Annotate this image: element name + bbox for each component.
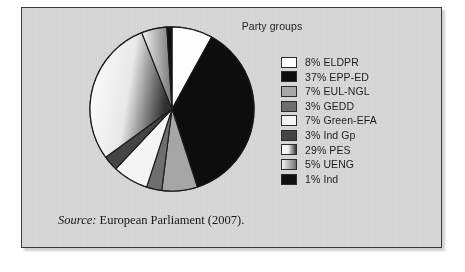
legend-label-eul-ngl: 7% EUL-NGL <box>305 86 370 97</box>
legend-item-gedd[interactable]: 3% GEDD <box>281 99 411 114</box>
pie-chart-svg <box>82 19 262 199</box>
legend-label-ind-gp: 3% Ind Gp <box>305 130 356 141</box>
legend-swatch-ueng <box>281 159 297 170</box>
legend-item-eul-ngl[interactable]: 7% EUL-NGL <box>281 84 411 99</box>
legend-item-ueng[interactable]: 5% UENG <box>281 157 411 172</box>
source-caption: Source: European Parliament (2007). <box>58 213 244 228</box>
pie-chart <box>82 19 262 199</box>
legend-label-epp-ed: 37% EPP-ED <box>305 72 369 83</box>
legend-swatch-ind <box>281 174 297 185</box>
legend-label-ind: 1% Ind <box>305 174 338 185</box>
legend-label-eldpr: 8% ELDPR <box>305 57 359 68</box>
legend-item-epp-ed[interactable]: 37% EPP-ED <box>281 70 411 85</box>
legend: 8% ELDPR 37% EPP-ED 7% EUL-NGL 3% GEDD 7… <box>281 55 411 186</box>
legend-item-eldpr[interactable]: 8% ELDPR <box>281 55 411 70</box>
legend-swatch-eul-ngl <box>281 86 297 97</box>
pie-slice-group <box>90 27 254 191</box>
legend-swatch-pes <box>281 144 297 155</box>
source-text: European Parliament (2007). <box>96 213 244 227</box>
figure-panel: Party groups 8% ELDPR <box>21 7 442 248</box>
legend-item-ind-gp[interactable]: 3% Ind Gp <box>281 128 411 143</box>
source-label: Source: <box>58 213 96 227</box>
legend-label-gedd: 3% GEDD <box>305 101 354 112</box>
legend-label-pes: 29% PES <box>305 145 351 156</box>
legend-label-ueng: 5% UENG <box>305 159 354 170</box>
legend-swatch-ind-gp <box>281 130 297 141</box>
legend-swatch-gedd <box>281 101 297 112</box>
legend-item-green-efa[interactable]: 7% Green-EFA <box>281 113 411 128</box>
legend-swatch-eldpr <box>281 57 297 68</box>
legend-label-green-efa: 7% Green-EFA <box>305 115 377 126</box>
legend-item-pes[interactable]: 29% PES <box>281 143 411 158</box>
legend-swatch-epp-ed <box>281 71 297 82</box>
legend-swatch-green-efa <box>281 115 297 126</box>
legend-item-ind[interactable]: 1% Ind <box>281 172 411 187</box>
